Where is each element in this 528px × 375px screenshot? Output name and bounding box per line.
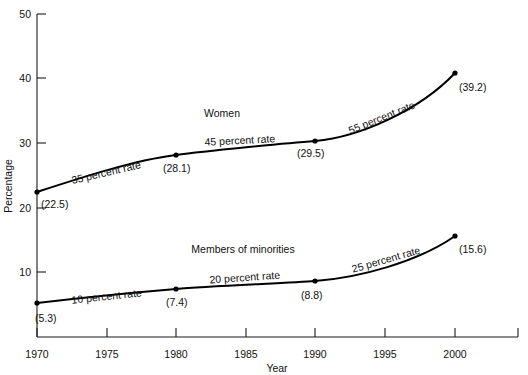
x-tick-group	[37, 328, 518, 337]
value-label-women-2000: (39.2)	[459, 81, 486, 93]
x-tick-label-1970: 1970	[25, 348, 49, 360]
y-tick-group	[37, 14, 46, 272]
data-point-women-1970	[34, 189, 39, 194]
data-point-minorities-1980	[173, 286, 178, 291]
data-point-minorities-1970	[34, 300, 39, 305]
value-label-minorities-2000: (15.6)	[459, 243, 486, 255]
x-axis-title: Year	[266, 362, 288, 374]
series-label-minorities: Members of minorities	[191, 243, 294, 255]
x-tick-label-1985: 1985	[234, 348, 258, 360]
x-tick-label-1990: 1990	[303, 348, 327, 360]
x-tick-label-1980: 1980	[164, 348, 188, 360]
line-chart: 50 40 30 20 10 1970 1975 1980 1985 1990 …	[0, 0, 528, 375]
data-point-women-1990	[312, 138, 317, 143]
y-tick-label-40: 40	[19, 72, 31, 84]
x-tick-label-1995: 1995	[373, 348, 397, 360]
value-label-women-1990: (29.5)	[297, 147, 324, 159]
x-tick-label-1975: 1975	[95, 348, 119, 360]
series-label-women: Women	[204, 107, 240, 119]
x-tick-label-group: 1970 1975 1980 1985 1990 1995 2000	[25, 348, 467, 360]
y-tick-label-10: 10	[19, 266, 31, 278]
data-point-minorities-1990	[312, 278, 317, 283]
point-value-labels: (22.5) (28.1) (29.5) (39.2) (5.3) (7.4) …	[35, 81, 486, 324]
value-label-minorities-1970: (5.3)	[35, 312, 57, 324]
rate-label-minorities-1: 10 percent rate	[71, 286, 143, 305]
value-label-minorities-1990: (8.8)	[301, 289, 323, 301]
y-axis-title: Percentage	[2, 159, 14, 213]
data-point-minorities-2000	[452, 233, 457, 238]
data-point-women-1980	[173, 152, 178, 157]
value-label-minorities-1980: (7.4)	[166, 296, 188, 308]
value-label-women-1970: (22.5)	[41, 198, 68, 210]
y-tick-label-group: 50 40 30 20 10	[19, 8, 31, 278]
y-tick-label-50: 50	[19, 8, 31, 20]
y-tick-label-20: 20	[19, 202, 31, 214]
rate-label-women-1: 35 percent rate	[70, 158, 142, 186]
data-point-women-2000	[452, 70, 457, 75]
value-label-women-1980: (28.1)	[163, 162, 190, 174]
chart-container: 50 40 30 20 10 1970 1975 1980 1985 1990 …	[0, 0, 528, 375]
y-tick-label-30: 30	[19, 137, 31, 149]
x-tick-label-2000: 2000	[443, 348, 467, 360]
rate-label-women-3: 55 percent rate	[347, 98, 417, 136]
